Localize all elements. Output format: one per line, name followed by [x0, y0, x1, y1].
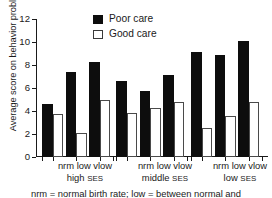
filled-square-icon: [93, 15, 103, 24]
y-tick-label-6: 6: [25, 83, 30, 93]
legend-label-poor-care: Poor care: [109, 14, 153, 24]
y-tick-label-4: 4: [25, 106, 30, 116]
bar-good-care-low-g2: [150, 108, 161, 157]
y-tick-6: [32, 88, 36, 89]
group-label-low-ses-line2: low SES: [185, 172, 272, 185]
group-label-low-ses-line1: nrm low vlow: [213, 160, 267, 171]
y-tick-12: [32, 19, 36, 20]
outlined-square-icon: [93, 30, 103, 39]
group-label-middle-ses-line1: nrm low vlow: [138, 160, 192, 171]
group-label-high-ses-line1: nrm low vlow: [58, 160, 112, 171]
y-tick-4: [32, 111, 36, 112]
bar-poor-care-low-g2: [140, 91, 151, 157]
bar-poor-care-vlow-g2: [163, 75, 174, 157]
group-label-low-ses: nrm low vlow low SES: [185, 160, 272, 184]
bar-poor-care-vlow-g3: [238, 41, 249, 157]
figure-caption: nrm = normal birth rate; low = between n…: [0, 188, 272, 198]
bar-poor-care-vlow-g1: [89, 62, 100, 157]
bar-poor-care-nrm-g3: [191, 52, 202, 157]
bar-poor-care-low-g1: [66, 72, 77, 157]
legend-item-poor-care: Poor care: [93, 13, 157, 25]
y-tick-10: [32, 42, 36, 43]
legend-item-good-care: Good care: [93, 28, 157, 40]
bar-good-care-vlow-g2: [174, 102, 185, 157]
behavior-problems-bar-chart: Average score on behavior problems 0 2 4…: [0, 0, 272, 198]
bar-good-care-vlow-g1: [100, 100, 111, 158]
bar-good-care-nrm-g1: [53, 114, 64, 157]
y-tick-8: [32, 65, 36, 66]
legend: Poor care Good care: [93, 13, 157, 43]
y-tick-label-10: 10: [19, 37, 30, 47]
bar-good-care-low-g3: [225, 116, 236, 157]
y-tick-label-8: 8: [25, 60, 30, 70]
y-axis-title: Average score on behavior problems: [8, 0, 18, 132]
y-tick-label-12: 12: [19, 14, 30, 24]
y-tick-label-2: 2: [25, 129, 30, 139]
bar-good-care-low-g1: [76, 133, 87, 157]
bar-poor-care-nrm-g1: [42, 104, 53, 157]
bar-good-care-nrm-g3: [202, 128, 213, 157]
y-tick-0: [32, 157, 36, 158]
y-axis-line: [36, 19, 37, 157]
bar-poor-care-low-g3: [215, 55, 226, 157]
bar-poor-care-nrm-g2: [116, 81, 127, 157]
legend-label-good-care: Good care: [109, 29, 157, 39]
bar-good-care-vlow-g3: [249, 102, 260, 157]
y-tick-2: [32, 134, 36, 135]
bar-good-care-nrm-g2: [127, 113, 138, 157]
